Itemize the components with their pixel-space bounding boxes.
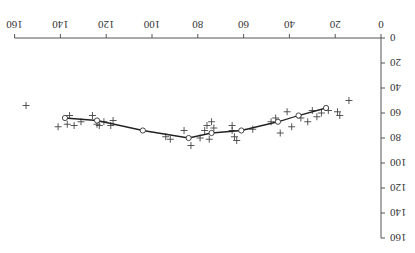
circle-marker [62, 115, 67, 120]
y-tick-label: 140 [390, 207, 407, 219]
plus-marker [304, 118, 311, 125]
x-tick-label: 0 [378, 19, 384, 31]
y-tick-label: 0 [390, 32, 396, 44]
plus-marker [55, 123, 62, 130]
y-tick-label: 40 [390, 82, 402, 94]
circle-marker [140, 128, 145, 133]
y-tick-label: 160 [390, 232, 407, 244]
y-tick-label: 60 [390, 107, 402, 119]
plus-marker [71, 122, 78, 129]
scatter-plot: 0204060801001201401600204060801001201401… [0, 0, 415, 253]
plus-marker [284, 108, 291, 115]
x-tick-label: 160 [6, 19, 23, 31]
y-tick-label: 80 [390, 132, 402, 144]
x-tick-label: 20 [329, 19, 341, 31]
plus-marker [89, 112, 96, 119]
plus-marker [23, 102, 30, 109]
x-tick-label: 100 [143, 19, 160, 31]
y-tick-label: 120 [390, 182, 407, 194]
x-tick-label: 80 [192, 19, 204, 31]
plus-marker [277, 130, 284, 137]
rotated-chart: 0204060801001201401600204060801001201401… [0, 0, 415, 253]
plus-marker [313, 113, 320, 120]
plus-marker [229, 122, 236, 129]
plus-marker [208, 118, 215, 125]
circle-marker [94, 118, 99, 123]
circle-marker [323, 105, 328, 110]
circle-marker [209, 130, 214, 135]
circle-marker [275, 119, 280, 124]
plus-marker [181, 127, 188, 134]
x-tick-label: 40 [283, 19, 295, 31]
circle-marker [296, 113, 301, 118]
plus-marker [288, 123, 295, 130]
plus-marker [187, 142, 194, 149]
circle-marker [239, 128, 244, 133]
x-tick-label: 120 [97, 19, 114, 31]
plus-marker [64, 121, 71, 128]
circle-marker [186, 135, 191, 140]
y-tick-label: 100 [390, 157, 407, 169]
plus-marker [345, 97, 352, 104]
y-tick-label: 20 [390, 57, 402, 69]
x-tick-label: 140 [52, 19, 69, 31]
plus-marker [206, 136, 213, 143]
x-tick-label: 60 [238, 19, 250, 31]
